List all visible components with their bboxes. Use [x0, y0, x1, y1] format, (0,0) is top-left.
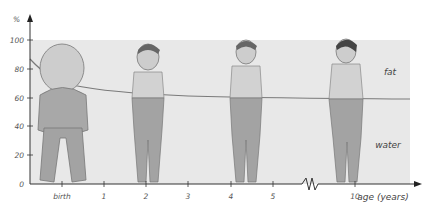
- water-region-label: water: [375, 140, 402, 150]
- x-tick-birth: birth: [53, 192, 71, 201]
- fat-region-label: fat: [384, 67, 397, 77]
- y-axis-arrow-icon: [27, 14, 33, 22]
- y-tick-0: 0: [19, 180, 24, 189]
- y-axis-unit: %: [13, 15, 20, 24]
- y-tick-40: 40: [14, 122, 24, 131]
- y-tick-80: 80: [14, 65, 24, 74]
- y-tick-100: 100: [10, 36, 25, 45]
- x-tick-2: 2: [144, 192, 149, 201]
- y-tick-60: 60: [14, 94, 24, 103]
- x-axis-arrow-icon: [414, 181, 422, 187]
- y-tick-20: 20: [14, 151, 24, 160]
- x-tick-4: 4: [229, 192, 234, 201]
- body-composition-chart: % 100 80 60 40 20 0 birth 1 2 3 4 5 10 a…: [0, 0, 444, 215]
- x-tick-1: 1: [102, 192, 107, 201]
- x-axis-title: age (years): [357, 192, 408, 202]
- x-tick-5: 5: [271, 192, 276, 201]
- x-tick-3: 3: [186, 192, 191, 201]
